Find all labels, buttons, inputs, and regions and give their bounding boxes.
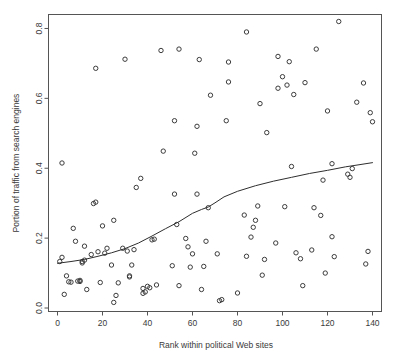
data-point — [303, 80, 307, 84]
y-tick-label: 0.2 — [35, 232, 45, 244]
data-point — [60, 161, 64, 165]
data-point — [139, 176, 143, 180]
data-point — [224, 119, 228, 123]
plot-canvas: 020406080100120140 0.00.20.40.60.8 Rank … — [0, 0, 396, 356]
data-point — [114, 293, 118, 297]
x-tick-label: 0 — [55, 318, 60, 328]
x-tick-label: 20 — [98, 318, 108, 328]
x-axis-ticks: 020406080100120140 — [55, 312, 380, 328]
data-point — [276, 86, 280, 90]
scatter-plot-figure: 020406080100120140 0.00.20.40.60.8 Rank … — [0, 0, 396, 356]
data-point — [177, 283, 181, 287]
data-points — [58, 19, 375, 304]
data-point — [71, 226, 75, 230]
data-point — [235, 291, 239, 295]
data-point — [332, 254, 336, 258]
data-point — [186, 245, 190, 249]
data-point — [265, 130, 269, 134]
data-point — [123, 57, 127, 61]
data-point — [355, 100, 359, 104]
data-point — [242, 213, 246, 217]
data-point — [253, 218, 257, 222]
y-tick-label: 0.4 — [35, 162, 45, 174]
data-point — [337, 19, 341, 23]
data-point — [215, 252, 219, 256]
data-point — [170, 264, 174, 268]
data-point — [94, 66, 98, 70]
data-point — [294, 251, 298, 255]
data-point — [289, 164, 293, 168]
data-point — [98, 280, 102, 284]
data-point — [321, 178, 325, 182]
data-point — [188, 265, 192, 269]
data-point — [193, 151, 197, 155]
data-point — [197, 57, 201, 61]
data-point — [330, 235, 334, 239]
data-point — [285, 83, 289, 87]
data-point — [105, 246, 109, 250]
data-point — [112, 218, 116, 222]
x-axis-title: Rank within political Web sites — [159, 340, 273, 350]
data-point — [130, 263, 134, 267]
data-point — [125, 249, 129, 253]
y-tick-label: 0.6 — [35, 92, 45, 104]
y-tick-label: 0.8 — [35, 22, 45, 34]
data-point — [73, 239, 77, 243]
data-point — [301, 283, 305, 287]
data-point — [116, 281, 120, 285]
data-point — [260, 273, 264, 277]
plot-frame — [49, 15, 382, 312]
data-point — [202, 264, 206, 268]
data-point — [96, 250, 100, 254]
data-point — [292, 92, 296, 96]
y-axis-title: Portion of traffic from search engines — [11, 94, 21, 233]
data-point — [172, 192, 176, 196]
y-tick-label: 0.0 — [35, 302, 45, 314]
data-point — [258, 101, 262, 105]
data-point — [226, 60, 230, 64]
data-point — [283, 204, 287, 208]
data-point — [323, 271, 327, 275]
data-point — [62, 292, 66, 296]
x-tick-label: 60 — [188, 318, 198, 328]
data-point — [64, 274, 68, 278]
data-point — [319, 213, 323, 217]
data-point — [134, 185, 138, 189]
data-point — [204, 239, 208, 243]
data-point — [244, 254, 248, 258]
x-tick-label: 100 — [275, 318, 289, 328]
data-point — [132, 247, 136, 251]
data-point — [348, 175, 352, 179]
data-point — [368, 110, 372, 114]
data-point — [100, 224, 104, 228]
data-point — [361, 81, 365, 85]
data-point — [256, 204, 260, 208]
data-point — [161, 149, 165, 153]
data-point — [280, 75, 284, 79]
data-point — [276, 54, 280, 58]
data-point — [85, 287, 89, 291]
data-point — [274, 241, 278, 245]
data-point — [109, 263, 113, 267]
data-point — [199, 287, 203, 291]
data-point — [325, 109, 329, 113]
data-point — [364, 262, 368, 266]
data-point — [251, 225, 255, 229]
data-point — [184, 236, 188, 240]
data-point — [310, 248, 314, 252]
data-point — [330, 162, 334, 166]
data-point — [350, 166, 354, 170]
data-point — [177, 47, 181, 51]
data-point — [262, 257, 266, 261]
y-axis-ticks: 0.00.20.40.60.8 — [35, 22, 49, 314]
data-point — [244, 30, 248, 34]
data-point — [249, 235, 253, 239]
x-tick-label: 120 — [320, 318, 334, 328]
data-point — [366, 249, 370, 253]
x-tick-label: 40 — [143, 318, 153, 328]
data-point — [312, 206, 316, 210]
data-point — [195, 124, 199, 128]
data-point — [287, 59, 291, 63]
x-tick-label: 140 — [365, 318, 379, 328]
data-point — [195, 192, 199, 196]
